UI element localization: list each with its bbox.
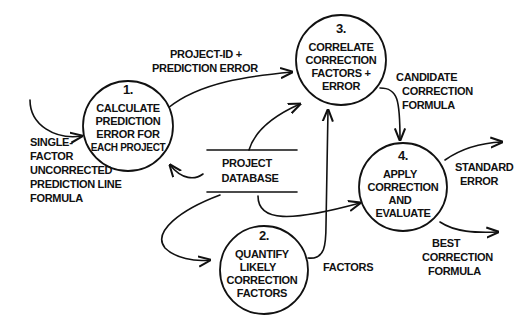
flow-label-line: CORRECTION [402,85,473,97]
flow-label-line: ERROR [460,175,499,187]
process-3-label-line: CORRECTION [306,54,377,66]
flow-project-id-error-arrow [168,72,292,108]
flow-label-line: CORRECTION [422,251,493,263]
process-4-label-line: APPLY [383,168,418,180]
label-best-formula: BEST CORRECTION FORMULA [422,237,493,277]
flow-label-line: FORMULA [30,192,83,204]
flow-label-line: PROJECT-ID + [170,48,242,60]
process-4-label-line: AND [389,194,412,206]
flow-input-formula-arrow [30,100,82,137]
datastore-project-database: PROJECT DATABASE [207,150,297,192]
label-standard-error: STANDARD ERROR [455,161,514,187]
label-project-id-error: PROJECT-ID + PREDICTION ERROR [152,48,258,74]
flow-label-line: PREDICTION ERROR [152,62,258,74]
process-1: 1. CALCULATE PREDICTION ERROR FOR EACH P… [83,81,173,171]
flow-label-line: BEST [432,237,461,249]
process-2: 2. QUANTIFY LIKELY CORRECTION FACTORS [220,226,308,314]
flow-label-line: FACTORS [323,261,373,273]
flow-label-line: STANDARD [455,161,514,173]
process-3: 3. CORRELATE CORRECTION FACTORS + ERROR [296,15,386,105]
process-1-label-line: PREDICTION [96,115,161,127]
flow-database-to-2-arrow [162,195,220,261]
flow-database-to-3-arrow [249,104,300,150]
process-2-label-line: CORRECTION [227,274,298,286]
process-1-label-line: EACH PROJECT [91,142,166,153]
process-3-label-line: FACTORS + [311,67,370,79]
process-2-number: 2. [259,228,269,243]
flow-database-to-4-arrow [258,196,360,216]
process-3-number: 3. [336,21,346,36]
process-1-number: 1. [123,82,133,97]
process-2-label-line: LIKELY [240,261,277,273]
flow-database-to-1-arrow [170,165,203,178]
process-1-label-line: CALCULATE [96,102,160,114]
flow-candidate-formula-arrow [380,88,400,140]
flow-label-line: CANDIDATE [396,71,457,83]
flow-label-line: FORMULA [402,99,455,111]
data-flow-diagram: 1. CALCULATE PREDICTION ERROR FOR EACH P… [0,0,532,334]
process-4-label-line: CORRECTION [368,181,439,193]
process-3-label-line: CORRELATE [309,41,374,53]
flow-label-line: SINGLE- [30,136,73,148]
label-factors: FACTORS [323,261,373,273]
flow-label-line: UNCORRECTED [30,164,113,176]
flow-label-line: FACTOR [30,150,74,162]
process-2-label-line: QUANTIFY [235,248,290,260]
flow-best-formula-arrow [440,222,498,232]
flow-factors-arrow [308,110,328,258]
process-4-label-line: EVALUATE [375,207,430,219]
process-4: 4. APPLY CORRECTION AND EVALUATE [359,143,447,231]
datastore-label-line: PROJECT [222,157,272,169]
label-candidate-formula: CANDIDATE CORRECTION FORMULA [396,71,473,111]
process-4-number: 4. [398,148,408,163]
flow-label-line: PREDICTION LINE [30,178,121,190]
process-3-label-line: ERROR [322,80,361,92]
flow-label-line: FORMULA [428,265,481,277]
process-2-label-line: FACTORS [237,287,287,299]
flow-standard-error-arrow [445,142,502,160]
process-1-label-line: ERROR FOR [96,128,160,140]
datastore-label-line: DATABASE [221,172,278,184]
